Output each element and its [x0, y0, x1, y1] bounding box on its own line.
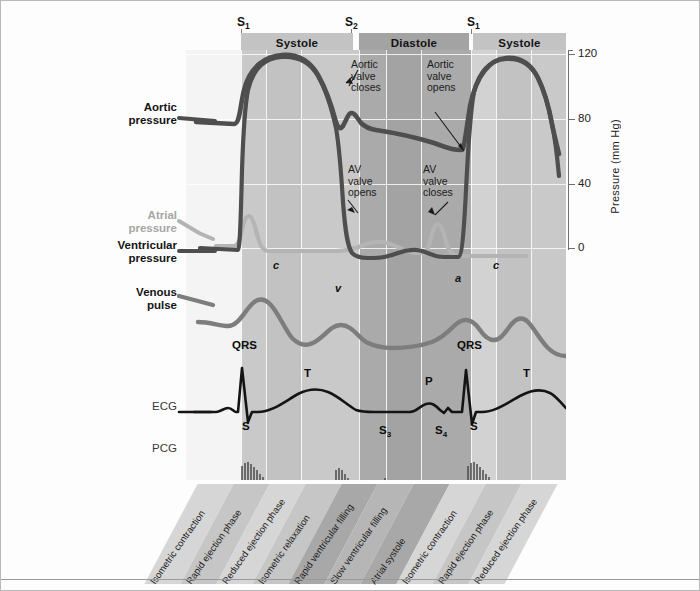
figure-root: S1 S2 S1 Systole Diastole Systole: [0, 0, 700, 591]
axis-tick-label-80: 80: [578, 112, 591, 124]
ecg-mark-p: P: [425, 375, 433, 387]
axis-tick-80: [568, 119, 575, 120]
axis-title: Pressure (mm Hg): [609, 119, 621, 214]
axis-tick-label-120: 120: [578, 47, 597, 59]
ecg-mark-t-2: T: [523, 367, 530, 379]
heart-sound-s1-second: S1: [467, 15, 480, 31]
ecg-mark-qrs-2: QRS: [457, 339, 482, 351]
callout-aortic-valve-closes: Aortic valve closes: [351, 59, 381, 94]
trace-svg: [186, 50, 566, 480]
pcg-mark-s3: S3: [379, 424, 391, 439]
pcg-burst-s1-first: [240, 462, 275, 480]
axis-tick-120: [568, 54, 575, 55]
trace-atrial-pressure: [216, 216, 526, 256]
venous-mark-a: a: [455, 272, 461, 284]
heart-sound-s1-first: S1: [237, 15, 250, 31]
axis-tick-label-40: 40: [578, 177, 591, 189]
axis-tick-label-0: 0: [578, 241, 584, 253]
ecg-mark-qrs-1: QRS: [232, 339, 257, 351]
wiggers-plot: [186, 50, 566, 480]
venous-mark-v: v: [335, 282, 341, 294]
pcg-burst-s3: [382, 478, 394, 480]
callout-av-valve-opens: AV valve opens: [348, 164, 377, 199]
trace-label-venous-pulse: Venous pulse: [61, 286, 177, 312]
pcg-mark-s1-second: S: [470, 420, 478, 432]
trace-label-ventricular-pressure: Ventricular pressure: [49, 239, 177, 265]
callout-av-valve-closes: AV valve closes: [423, 164, 453, 199]
pcg-mark-s4: S4: [435, 424, 447, 439]
axis-tick-40: [568, 184, 575, 185]
callout-aortic-valve-opens: Aortic valve opens: [427, 59, 456, 94]
pressure-axis: 120 80 40 0: [568, 50, 572, 250]
trace-label-ecg: ECG: [61, 400, 177, 413]
pcg-burst-s2: [336, 468, 357, 480]
ecg-mark-t-1: T: [304, 367, 311, 379]
trace-label-atrial-pressure: Atrial pressure: [61, 209, 177, 235]
axis-cap-bottom: [568, 248, 573, 249]
cycle-phase-strip: Isometric contraction Rapid ejection pha…: [119, 484, 589, 584]
pcg-burst-s1-second: [468, 462, 498, 480]
trace-label-pcg: PCG: [61, 442, 177, 455]
venous-mark-c1: c: [273, 259, 279, 271]
trace-ecg: [194, 368, 566, 424]
pcg-mark-s1-first: S: [242, 420, 250, 432]
figure-baseline: [1, 579, 700, 580]
axis-cap-top: [568, 50, 573, 51]
label-connectors: [177, 91, 237, 461]
sound-tick-3: [471, 29, 472, 34]
trace-label-aortic-pressure: Aortic pressure: [61, 101, 177, 127]
venous-mark-c2: c: [493, 259, 499, 271]
